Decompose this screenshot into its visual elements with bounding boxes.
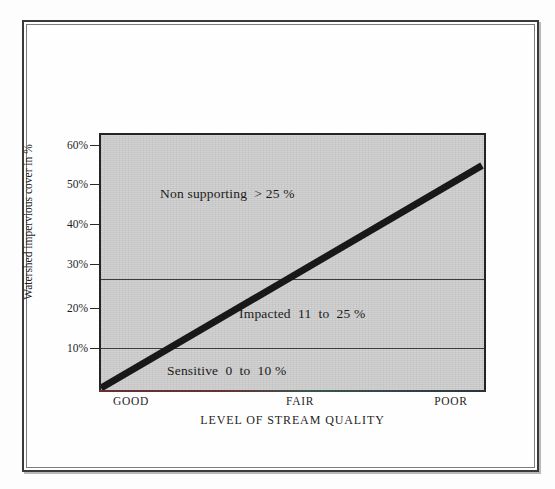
x-tick-label-fair: FAIR (286, 395, 314, 407)
y-tick-mark-10 (90, 348, 99, 349)
y-axis-tick-labels: 60% 50% 40% 30% 20% 10% (52, 0, 88, 489)
y-tick-mark-60 (90, 145, 99, 146)
zone-label-non-supporting: Non supporting > 25 % (160, 186, 295, 202)
y-tick-label-40: 40% (67, 218, 88, 230)
x-axis-title: LEVEL OF STREAM QUALITY (99, 413, 486, 428)
y-tick-label-60: 60% (67, 139, 88, 151)
zone-label-sensitive: Sensitive 0 to 10 % (167, 363, 287, 379)
y-tick-label-30: 30% (67, 258, 88, 270)
trend-line (101, 135, 484, 390)
x-tick-label-good: GOOD (113, 395, 149, 407)
zone-label-impacted: Impacted 11 to 25 % (239, 306, 366, 322)
y-tick-label-50: 50% (67, 178, 88, 190)
y-tick-mark-30 (90, 264, 99, 265)
chart-figure: Watershed impervious cover in % 60% 50% … (0, 0, 555, 489)
y-tick-mark-40 (90, 224, 99, 225)
x-tick-label-poor: POOR (434, 395, 467, 407)
y-tick-label-10: 10% (67, 342, 88, 354)
plot-area: Non supporting > 25 % Impacted 11 to 25 … (99, 133, 486, 392)
baseline-scan-fringe (99, 390, 486, 392)
y-tick-mark-20 (90, 308, 99, 309)
page-canvas: Watershed impervious cover in % 60% 50% … (0, 0, 555, 489)
y-axis-title: Watershed impervious cover in % (22, 132, 34, 312)
y-tick-label-20: 20% (67, 302, 88, 314)
y-tick-mark-50 (90, 184, 99, 185)
